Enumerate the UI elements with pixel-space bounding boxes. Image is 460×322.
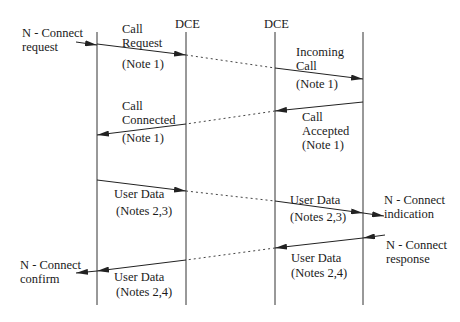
dashed-transit-4 bbox=[186, 248, 275, 260]
label-connect-indication: N - Connect indication bbox=[384, 193, 445, 221]
label-connect-request: N - Connect request bbox=[22, 26, 83, 54]
label-call-request: Call Request (Note 1) bbox=[122, 22, 164, 71]
arrow-connect-indication bbox=[363, 213, 384, 216]
label-user-data-out-2: User Data (Notes 2,4) bbox=[291, 251, 347, 280]
label-call-connected: Call Connected (Note 1) bbox=[122, 99, 175, 145]
dashed-transit-3 bbox=[186, 191, 275, 201]
label-call-accepted: Call Accepted (Note 1) bbox=[302, 110, 349, 152]
label-user-data-out-1: User Data (Notes 2,3) bbox=[114, 187, 172, 218]
arrow-connect-response bbox=[363, 235, 385, 238]
label-connect-response: N - Connect response bbox=[386, 238, 447, 266]
header-dce-left: DCE bbox=[175, 17, 200, 31]
dashed-transit-2 bbox=[186, 111, 275, 124]
header-dce-right: DCE bbox=[264, 17, 289, 31]
dashed-transit-1 bbox=[186, 55, 275, 68]
label-user-data-in-2: User Data (Notes 2,4) bbox=[114, 270, 172, 299]
label-incoming-call: Incoming Call (Note 1) bbox=[296, 45, 344, 91]
arrow-user-data-out-2 bbox=[275, 238, 363, 248]
label-connect-confirm: N - Connect confirm bbox=[20, 258, 81, 286]
label-user-data-in-1: User Data (Notes 2,3) bbox=[290, 193, 346, 224]
